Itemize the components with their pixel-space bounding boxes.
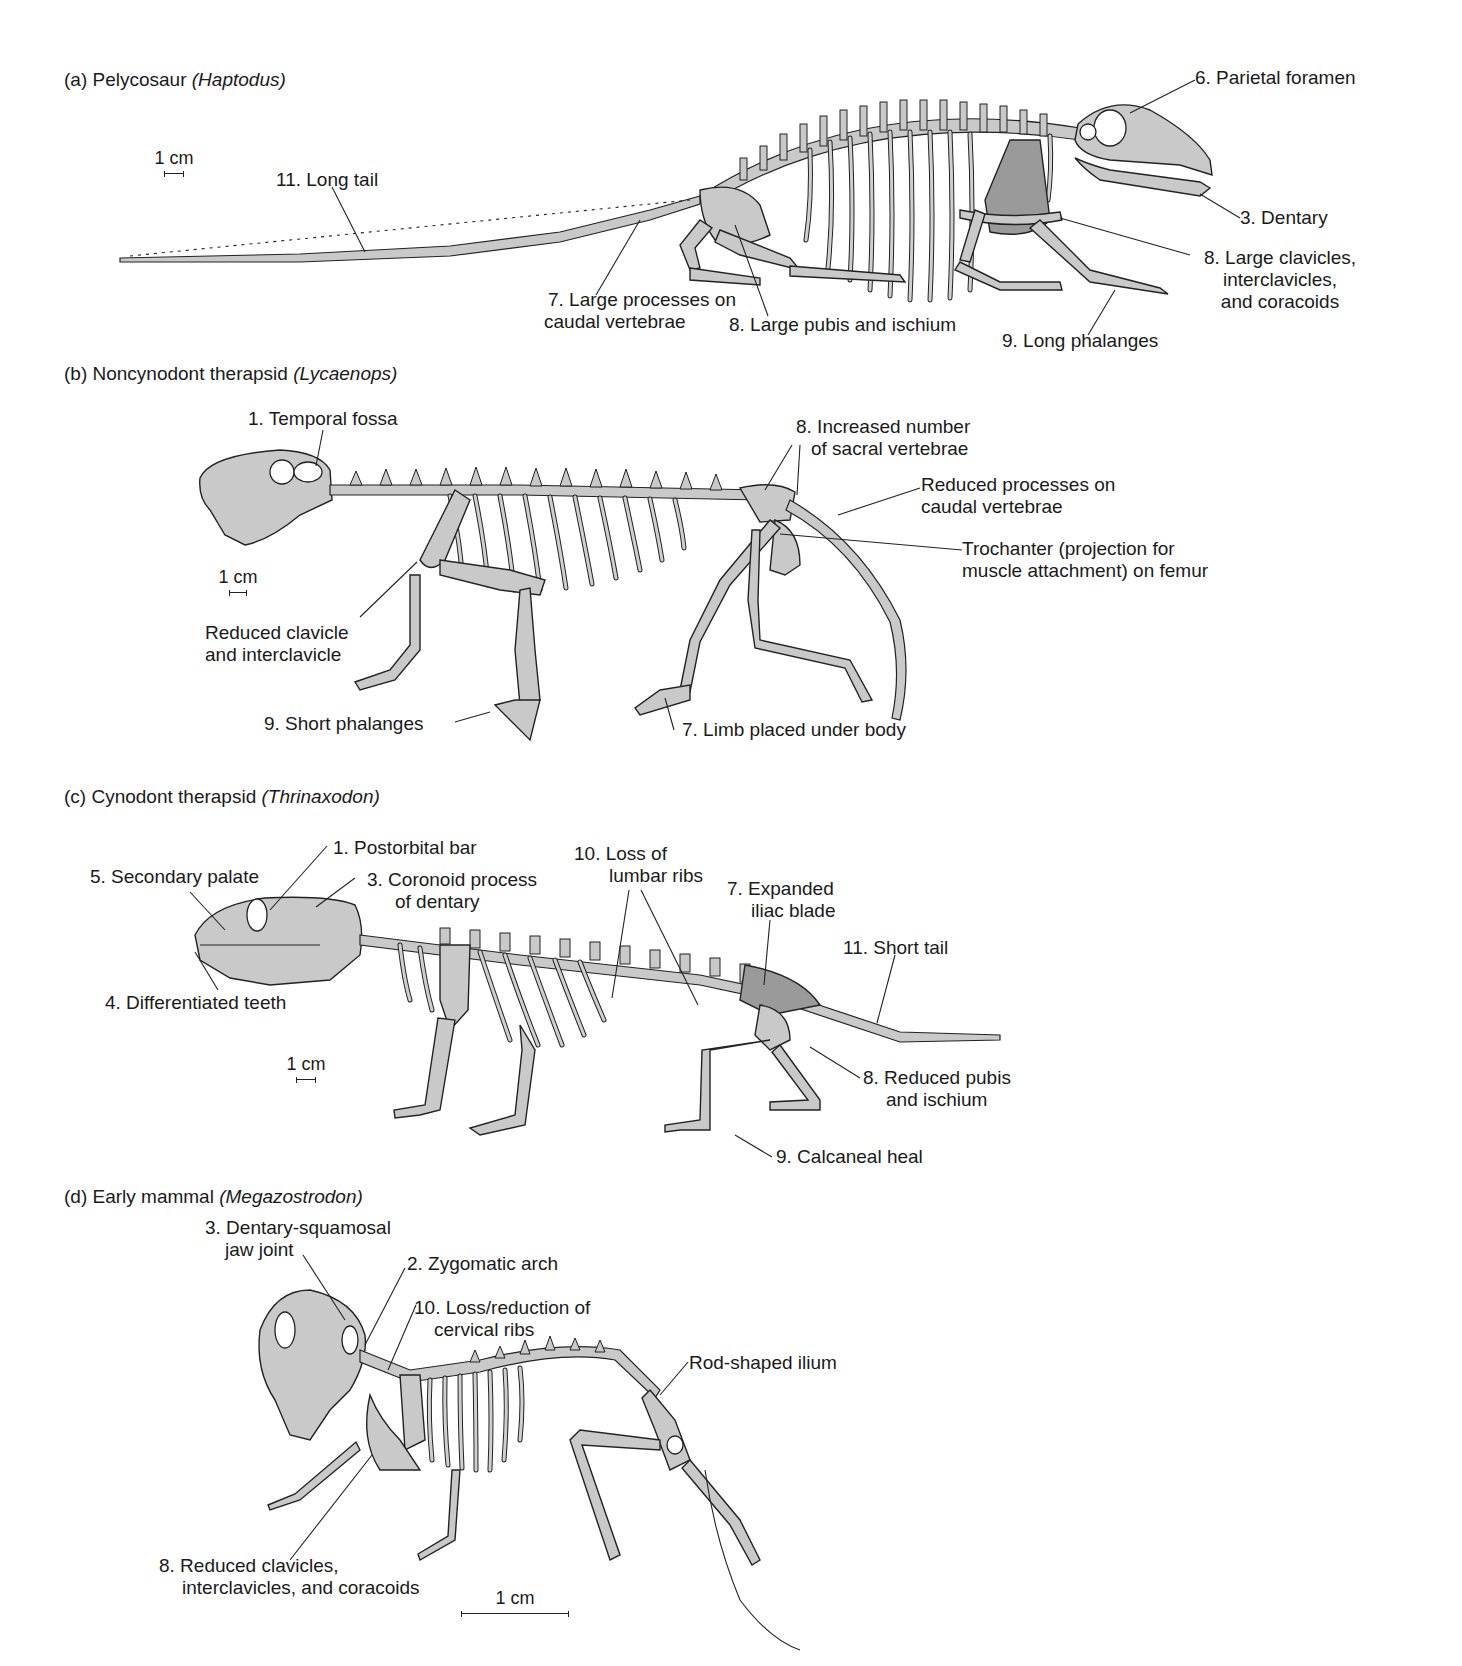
label-line: 10. Loss/reduction of <box>414 1297 590 1319</box>
panel-d-genus: (Megazostrodon) <box>219 1186 363 1207</box>
scale-bar-icon <box>461 1611 569 1617</box>
label-line: interclavicles, and coracoids <box>159 1577 420 1599</box>
panel-c-title: (c) Cynodont therapsid (Thrinaxodon) <box>64 786 380 808</box>
label-temporal-fossa: 1. Temporal fossa <box>248 408 398 430</box>
label-line: 8. Reduced pubis <box>863 1067 1011 1089</box>
label-line: interclavicles, <box>1182 269 1378 291</box>
panel-a-scale-bar: 1 cm <box>154 148 194 177</box>
haptodus-skeleton <box>120 100 1212 300</box>
label-line: Reduced processes on <box>921 474 1115 496</box>
label-large-clavicles: 8. Large clavicles, interclavicles, and … <box>1182 247 1378 313</box>
label-line: 3. Dentary-squamosal <box>205 1217 391 1239</box>
scale-label: 1 cm <box>218 567 257 587</box>
label-line: and coracoids <box>1182 291 1378 313</box>
label-line: Trochanter (projection for <box>962 538 1208 560</box>
scale-label: 1 cm <box>495 1588 534 1608</box>
label-line: 3. Coronoid process <box>367 869 537 891</box>
label-differentiated-teeth: 4. Differentiated teeth <box>105 992 286 1014</box>
label-calcaneal-heal: 9. Calcaneal heal <box>776 1146 923 1168</box>
panel-b-title: (b) Noncynodont therapsid (Lycaenops) <box>64 363 397 385</box>
label-long-phalanges: 9. Long phalanges <box>1002 330 1158 352</box>
label-reduced-clavicles: 8. Reduced clavicles, interclavicles, an… <box>159 1555 420 1599</box>
label-expanded-iliac-blade: 7. Expanded iliac blade <box>727 878 836 922</box>
label-line: 8. Reduced clavicles, <box>159 1555 420 1577</box>
label-line: of sacral vertebrae <box>796 438 970 460</box>
label-line: jaw joint <box>205 1239 391 1261</box>
label-short-phalanges: 9. Short phalanges <box>264 713 424 735</box>
panel-d-title: (d) Early mammal (Megazostrodon) <box>64 1186 363 1208</box>
label-short-tail: 11. Short tail <box>843 937 948 959</box>
label-reduced-pubis-ischium: 8. Reduced pubis and ischium <box>863 1067 1011 1111</box>
label-coronoid-process: 3. Coronoid process of dentary <box>367 869 537 913</box>
label-dentary-squamosal-joint: 3. Dentary-squamosal jaw joint <box>205 1217 391 1261</box>
panel-a-genus: (Haptodus) <box>192 69 286 90</box>
scale-label: 1 cm <box>286 1054 325 1074</box>
panel-b-prefix: (b) Noncynodont therapsid <box>64 363 293 384</box>
label-long-tail: 11. Long tail <box>276 169 378 191</box>
label-parietal-foramen: 6. Parietal foramen <box>1195 67 1356 89</box>
label-loss-of-lumbar-ribs: 10. Loss of lumbar ribs <box>574 843 703 887</box>
label-line: 8. Increased number <box>796 416 970 438</box>
label-line: Reduced clavicle <box>205 622 349 644</box>
label-trochanter: Trochanter (projection for muscle attach… <box>962 538 1208 582</box>
panel-a-title: (a) Pelycosaur (Haptodus) <box>64 69 286 91</box>
lycaenops-skeleton <box>200 450 906 740</box>
label-large-caudal-processes: 7. Large processes on caudal vertebrae <box>520 289 736 333</box>
label-line: caudal vertebrae <box>520 311 736 333</box>
label-line: muscle attachment) on femur <box>962 560 1208 582</box>
panel-c-genus: (Thrinaxodon) <box>262 786 380 807</box>
panel-b-genus: (Lycaenops) <box>293 363 397 384</box>
panel-a-prefix: (a) Pelycosaur <box>64 69 192 90</box>
panel-c-scale-bar: 1 cm <box>286 1054 326 1083</box>
panel-b-scale-bar: 1 cm <box>218 567 258 596</box>
scale-bar-icon <box>164 171 184 177</box>
label-line: and ischium <box>863 1089 1011 1111</box>
label-cervical-ribs: 10. Loss/reduction of cervical ribs <box>414 1297 590 1341</box>
scale-bar-icon <box>229 590 247 596</box>
label-postorbital-bar: 1. Postorbital bar <box>333 837 477 859</box>
label-line: 7. Large processes on <box>520 289 736 311</box>
scale-label: 1 cm <box>154 148 193 168</box>
label-line: 7. Expanded <box>727 878 836 900</box>
label-line: of dentary <box>367 891 537 913</box>
label-limb-under-body: 7. Limb placed under body <box>682 719 906 741</box>
label-line: and interclavicle <box>205 644 349 666</box>
label-dentary: 3. Dentary <box>1240 207 1328 229</box>
label-line: iliac blade <box>727 900 836 922</box>
scale-bar-icon <box>296 1077 316 1083</box>
label-line: 10. Loss of <box>574 843 703 865</box>
label-large-pubis-ischium: 8. Large pubis and ischium <box>729 314 956 336</box>
label-reduced-clavicle: Reduced clavicle and interclavicle <box>205 622 349 666</box>
label-line: lumbar ribs <box>574 865 703 887</box>
label-rod-shaped-ilium: Rod-shaped ilium <box>689 1352 837 1374</box>
label-line: cervical ribs <box>414 1319 590 1341</box>
panel-d-scale-bar: 1 cm <box>460 1588 570 1617</box>
panel-d-prefix: (d) Early mammal <box>64 1186 219 1207</box>
label-line: caudal vertebrae <box>921 496 1115 518</box>
label-line: 8. Large clavicles, <box>1182 247 1378 269</box>
label-sacral-vertebrae: 8. Increased number of sacral vertebrae <box>796 416 970 460</box>
label-secondary-palate: 5. Secondary palate <box>90 866 259 888</box>
label-reduced-caudal-processes: Reduced processes on caudal vertebrae <box>921 474 1115 518</box>
label-zygomatic-arch: 2. Zygomatic arch <box>407 1253 558 1275</box>
panel-c-prefix: (c) Cynodont therapsid <box>64 786 262 807</box>
